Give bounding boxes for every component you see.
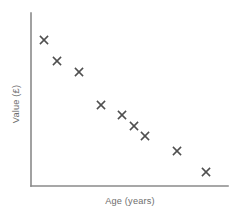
plot-background [0,0,241,215]
plot-canvas: Age (years) Value (£) [0,0,241,215]
x-axis-label: Age (years) [105,196,155,206]
scatter-plot-figure: Age (years) Value (£) [0,0,241,215]
y-axis-label: Value (£) [11,85,21,123]
